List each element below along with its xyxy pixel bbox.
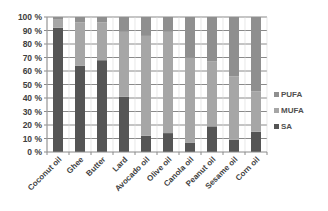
bar-segment-mufa bbox=[97, 22, 107, 60]
bar-segment-mufa bbox=[185, 58, 195, 143]
x-tick-label: Lard bbox=[111, 155, 130, 174]
bar-segment-sa bbox=[75, 66, 85, 152]
bar-segment-mufa bbox=[53, 20, 63, 28]
y-tick-label: 100 % bbox=[18, 12, 43, 22]
bar-segment-sa bbox=[229, 140, 239, 152]
bar-segment-sa bbox=[97, 60, 107, 152]
legend-label-sa: SA bbox=[281, 122, 292, 131]
y-axis-ticks: 0 %10 %20 %30 %40 %50 %60 %70 %80 %90 %1… bbox=[18, 12, 43, 157]
bar-segment-mufa bbox=[119, 32, 129, 97]
bar-lard bbox=[119, 17, 129, 152]
legend-swatch-pufa bbox=[274, 92, 279, 97]
bar-segment-mufa bbox=[251, 91, 261, 132]
legend-swatch-mufa bbox=[274, 108, 279, 113]
y-tick-label: 70 % bbox=[23, 53, 43, 63]
y-tick-label: 0 % bbox=[27, 147, 42, 157]
bar-segment-mufa bbox=[229, 76, 239, 139]
bar-segment-sa bbox=[251, 132, 261, 152]
x-tick-label: Butter bbox=[84, 155, 107, 178]
bar-segment-mufa bbox=[75, 22, 85, 65]
y-tick-label: 90 % bbox=[23, 26, 43, 36]
bar-segment-sa bbox=[185, 143, 195, 152]
bar-segment-pufa bbox=[185, 17, 195, 58]
bar-corn-oil bbox=[251, 17, 261, 152]
legend-swatch-sa bbox=[274, 124, 279, 129]
bar-butter bbox=[97, 17, 107, 152]
bar-segment-pufa bbox=[229, 17, 239, 76]
bar-segment-pufa bbox=[207, 17, 217, 62]
x-tick-label: Coconut oil bbox=[26, 155, 63, 192]
bar-avocado-oil bbox=[141, 17, 151, 152]
legend: PUFAMUFASA bbox=[274, 90, 304, 131]
bar-ghee bbox=[75, 17, 85, 152]
bar-segment-pufa bbox=[163, 17, 173, 32]
y-tick-label: 40 % bbox=[23, 93, 43, 103]
bar-segment-pufa bbox=[97, 17, 107, 22]
bar-canola-oil bbox=[185, 17, 195, 152]
bar-segment-pufa bbox=[119, 17, 129, 32]
bar-segment-sa bbox=[141, 136, 151, 152]
bar-segment-mufa bbox=[207, 62, 217, 127]
x-axis-labels: Coconut oilGheeButterLardAvocado oilOliv… bbox=[26, 155, 261, 194]
bar-segment-sa bbox=[207, 126, 217, 152]
bar-segment-pufa bbox=[53, 17, 63, 20]
y-tick-label: 20 % bbox=[23, 120, 43, 130]
bar-sesame-oil bbox=[229, 17, 239, 152]
bar-olive-oil bbox=[163, 17, 173, 152]
bar-segment-pufa bbox=[251, 17, 261, 91]
stacked-bar-chart: 0 %10 %20 %30 %40 %50 %60 %70 %80 %90 %1… bbox=[0, 0, 328, 211]
bar-segment-sa bbox=[53, 28, 63, 152]
legend-label-mufa: MUFA bbox=[281, 106, 304, 115]
bar-segment-mufa bbox=[141, 36, 151, 136]
bar-peanut-oil bbox=[207, 17, 217, 152]
y-tick-label: 30 % bbox=[23, 107, 43, 117]
bar-segment-sa bbox=[119, 97, 129, 152]
y-tick-label: 80 % bbox=[23, 39, 43, 49]
bar-coconut-oil bbox=[53, 17, 63, 152]
y-tick-label: 10 % bbox=[23, 134, 43, 144]
x-tick-label: Ghee bbox=[65, 155, 86, 176]
bar-segment-sa bbox=[163, 133, 173, 152]
x-tick-label: Corn oil bbox=[234, 155, 262, 183]
y-tick-label: 60 % bbox=[23, 66, 43, 76]
bar-segment-pufa bbox=[141, 17, 151, 36]
y-tick-label: 50 % bbox=[23, 80, 43, 90]
bar-segment-pufa bbox=[75, 17, 85, 22]
bar-segment-mufa bbox=[163, 32, 173, 133]
legend-label-pufa: PUFA bbox=[281, 90, 303, 99]
